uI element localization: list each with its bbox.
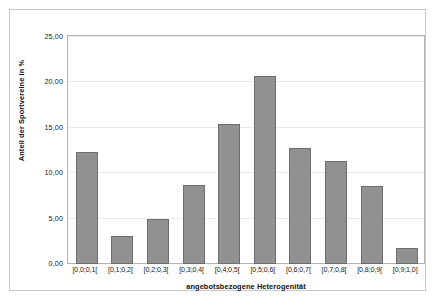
bar[interactable] (111, 236, 133, 264)
x-axis-tick-label: [0,0;0,1[ (67, 266, 103, 274)
x-axis-tick-label: [0,6;0,7[ (281, 266, 317, 274)
bar[interactable] (218, 124, 240, 264)
figure-frame: Anteil der Sportvereine in % 0,005,0010,… (9, 9, 426, 291)
bar[interactable] (289, 148, 311, 264)
bar[interactable] (183, 185, 205, 264)
bar[interactable] (147, 219, 169, 264)
x-axis-tick-label: [0,9;1,0] (387, 266, 423, 274)
bar-slot (389, 37, 425, 264)
bar-slot (318, 37, 354, 264)
x-axis-tick-label: [0,2;0,3[ (138, 266, 174, 274)
y-axis-tick-label: 15,00 (45, 122, 64, 131)
bar-slot (211, 37, 247, 264)
y-axis-tick-label: 20,00 (45, 77, 64, 86)
bars-layer (69, 37, 425, 264)
y-axis-tick-label: 25,00 (45, 32, 64, 41)
bar-chart-figure: Anteil der Sportvereine in % 0,005,0010,… (0, 0, 440, 307)
y-axis-tick-label: 5,00 (49, 213, 63, 222)
plot-area (67, 35, 425, 264)
x-axis-tick-label: [0,3;0,4[ (174, 266, 210, 274)
x-axis-tick-label: [0,1;0,2[ (103, 266, 139, 274)
bar[interactable] (325, 161, 347, 265)
bar-slot (354, 37, 390, 264)
x-axis-tick-label: [0,8;0,9[ (352, 266, 388, 274)
x-axis-title: angebotsbezogene Heterogenität (67, 282, 425, 291)
x-axis-tick-label: [0,7;0,8[ (316, 266, 352, 274)
y-axis-tick-label: 10,00 (45, 168, 64, 177)
bar-slot (69, 37, 105, 264)
bar-slot (176, 37, 212, 264)
bar-slot (247, 37, 283, 264)
bar-slot (105, 37, 141, 264)
bar-slot (140, 37, 176, 264)
bar[interactable] (254, 76, 276, 264)
x-axis-tick-label: [0,5;0,6[ (245, 266, 281, 274)
x-axis-tick-labels: [0,0;0,1[[0,1;0,2[[0,2;0,3[[0,3;0,4[[0,4… (67, 266, 425, 280)
bar[interactable] (361, 186, 383, 264)
y-axis-tick-labels: 0,005,0010,0015,0020,0025,00 (19, 35, 67, 264)
y-axis-tick-label: 0,00 (49, 259, 63, 268)
bar[interactable] (396, 248, 418, 264)
bar[interactable] (76, 152, 98, 264)
bar-slot (283, 37, 319, 264)
x-axis-tick-label: [0,4;0,5[ (209, 266, 245, 274)
